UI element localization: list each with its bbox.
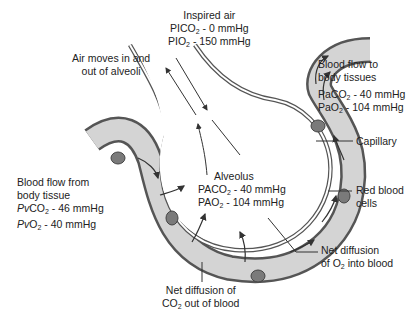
pao2-value: PaO2 - 104 mmHg bbox=[318, 101, 405, 114]
pico2-value: PICO2 - 0 mmHg bbox=[168, 22, 251, 35]
blood-to-tissues-label: Blood flow to body tissues PaCO2 - 40 mm… bbox=[318, 58, 405, 114]
alveolus-values: PACO2 - 40 mmHg PAO2 - 104 mmHg bbox=[198, 183, 286, 209]
co2-diffusion-label: Net diffusion of CO2 out of blood bbox=[162, 284, 239, 310]
inspired-air-title: Inspired air bbox=[168, 9, 251, 22]
blood-from-tissue-label: Blood flow from body tissue PvCO2 - 46 m… bbox=[17, 176, 104, 231]
alveolar-paco2-value: PACO2 - 40 mmHg bbox=[198, 183, 286, 196]
paco2-value: PaCO2 - 40 mmHg bbox=[318, 88, 405, 101]
alveolus-title: Alveolus bbox=[214, 170, 254, 183]
o2-diffusion-label: Net diffusion of O2 into blood bbox=[321, 244, 393, 270]
inspired-air-label: Inspired air PICO2 - 0 mmHg PIO2 - 150 m… bbox=[168, 9, 251, 48]
alveolar-pao2-value: PAO2 - 104 mmHg bbox=[198, 196, 286, 209]
pvco2-value: PvCO2 - 46 mmHg bbox=[17, 202, 104, 215]
air-moves-label: Air moves in and out of alveoli bbox=[72, 52, 150, 78]
capillary-label: Capillary bbox=[356, 135, 397, 148]
pio2-value: PIO2 - 150 mmHg bbox=[168, 35, 251, 48]
pvo2-value: PvO2 - 40 mmHg bbox=[17, 218, 104, 231]
red-blood-cells-label: Red blood cells bbox=[356, 184, 404, 210]
